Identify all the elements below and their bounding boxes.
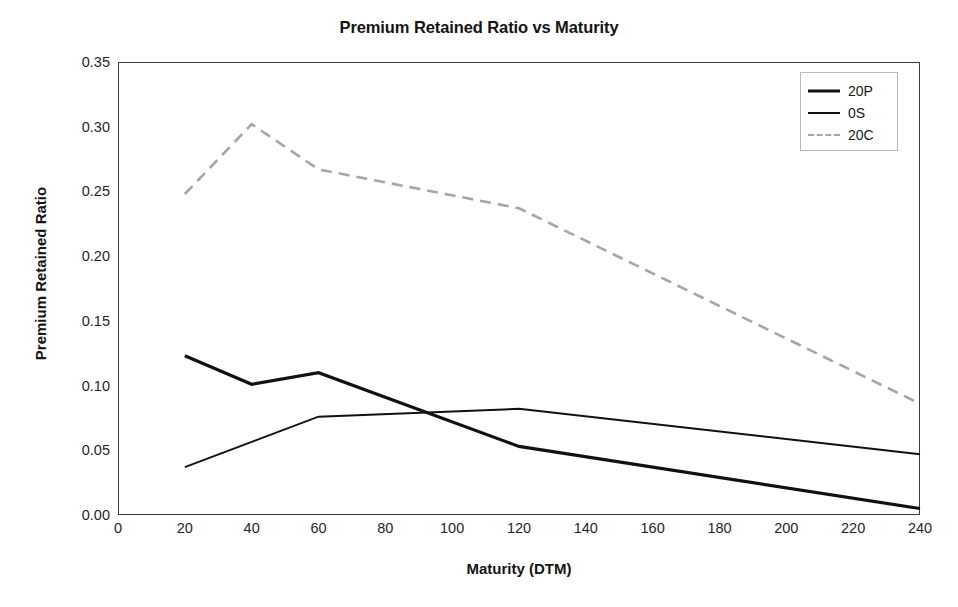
chart-title: Premium Retained Ratio vs Maturity (0, 18, 958, 37)
x-tick-label: 180 (690, 520, 750, 536)
x-tick-label: 0 (88, 520, 148, 536)
x-tick-label: 20 (155, 520, 215, 536)
x-tick-label: 60 (289, 520, 349, 536)
x-tick-label: 100 (422, 520, 482, 536)
x-tick-label: 240 (890, 520, 950, 536)
series-line-0s (185, 409, 920, 467)
y-tick-label: 0.05 (48, 442, 110, 458)
legend-line-icon-0s (808, 107, 840, 119)
x-tick-label: 40 (222, 520, 282, 536)
series-line-20p (185, 356, 920, 509)
y-tick-label: 0.35 (48, 54, 110, 70)
x-axis-title: Maturity (DTM) (118, 560, 920, 577)
x-tick-label: 120 (489, 520, 549, 536)
y-tick-label: 0.15 (48, 313, 110, 329)
y-tick-label: 0.30 (48, 119, 110, 135)
legend-line-icon-20p (808, 85, 840, 97)
y-tick-label: 0.10 (48, 378, 110, 394)
legend-item-0s: 0S (801, 102, 897, 124)
legend-label-20c: 20C (848, 128, 874, 142)
x-tick-label: 200 (756, 520, 816, 536)
legend-item-20c: 20C (801, 124, 897, 146)
legend-label-20p: 20P (848, 84, 873, 98)
x-tick-label: 160 (623, 520, 683, 536)
legend-line-icon-20c (808, 129, 840, 141)
legend-item-20p: 20P (801, 80, 897, 102)
y-tick-label: 0.25 (48, 183, 110, 199)
chart-legend: 20P 0S 20C (800, 72, 898, 151)
legend-label-0s: 0S (848, 106, 865, 120)
x-tick-label: 220 (823, 520, 883, 536)
x-tick-label: 140 (556, 520, 616, 536)
y-axis-tick-labels: 0.000.050.100.150.200.250.300.35 (44, 0, 110, 607)
chart-figure: Premium Retained Ratio vs Maturity Premi… (0, 0, 958, 607)
y-tick-label: 0.20 (48, 248, 110, 264)
x-tick-label: 80 (355, 520, 415, 536)
series-line-20c (185, 124, 920, 404)
